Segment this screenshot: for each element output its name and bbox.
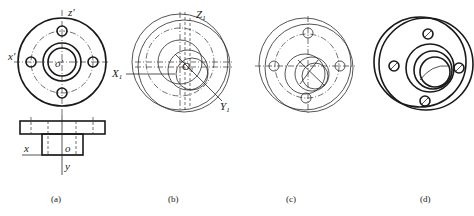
- caption-b: (b): [168, 194, 179, 204]
- figure-c: (c): [255, 16, 355, 204]
- label-y: y: [64, 160, 70, 172]
- label-x: x: [23, 142, 29, 154]
- caption-c: (c): [286, 194, 296, 204]
- label-y1: Y1: [220, 100, 230, 114]
- flange-projection-diagram: z' x' o' x o y (a) Z1 X1 O1 Y1: [0, 0, 474, 216]
- label-z-prime: z': [67, 6, 75, 18]
- label-x1: X1: [111, 67, 122, 81]
- caption-d: (d): [420, 194, 431, 204]
- figure-b: Z1 X1 O1 Y1 (b): [111, 8, 232, 204]
- label-o: o: [65, 142, 71, 154]
- caption-a: (a): [51, 194, 61, 204]
- figure-a-front-view: x o y (a): [20, 115, 105, 204]
- figure-a-top-view: z' x' o': [7, 6, 110, 116]
- figure-d-isometric: (d): [374, 17, 473, 204]
- label-x-prime: x': [7, 50, 16, 62]
- label-o-prime: o': [55, 57, 64, 69]
- label-z1: Z1: [196, 8, 206, 22]
